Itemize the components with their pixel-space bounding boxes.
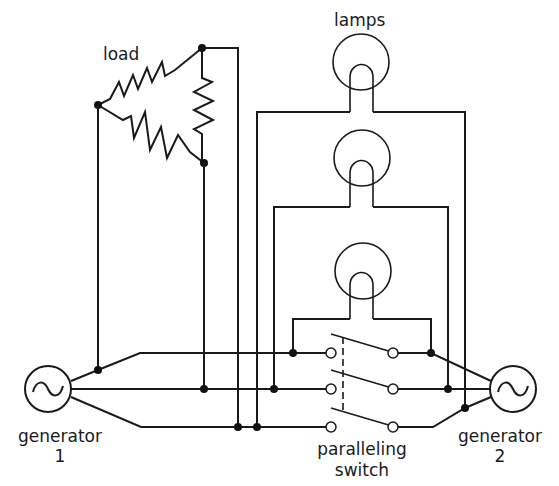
circuit-diagram: load lamps generator 1 paralleling switc… — [0, 0, 559, 486]
bus-phase-a-gen1 — [71, 353, 331, 381]
wire-lamp2-left — [274, 207, 350, 389]
generator-1-icon — [25, 366, 71, 412]
switch-terminal-b-right — [388, 384, 398, 394]
load-resistor-bottom — [98, 105, 204, 163]
bus-phase-a-gen2 — [398, 353, 491, 381]
wire-lamp3-right — [373, 319, 431, 353]
switch-terminal-b-left — [326, 384, 336, 394]
load-resistor-right — [194, 48, 213, 163]
switch-terminal-c-left — [326, 422, 336, 432]
switch-blade-a — [331, 334, 392, 352]
label-lamps: lamps — [334, 10, 385, 30]
switch-blade-c — [331, 408, 392, 426]
label-generator-2: generator — [458, 426, 542, 446]
switch-terminal-a-right — [388, 348, 398, 358]
lamp-1-icon — [333, 34, 389, 112]
wire-lamp3-left — [293, 319, 350, 353]
label-generator-2-number: 2 — [495, 446, 506, 466]
label-generator-1-number: 1 — [55, 446, 66, 466]
paralleling-switch[interactable] — [326, 334, 398, 432]
wire-lamp1-right — [373, 112, 465, 408]
generator-2-icon — [490, 366, 536, 412]
lamp-3-icon — [335, 243, 391, 319]
switch-terminal-a-left — [326, 348, 336, 358]
bus-phase-c-gen1 — [71, 397, 331, 427]
label-load: load — [103, 44, 139, 64]
lamp-2-icon — [334, 130, 390, 207]
wire-lamp1-left — [257, 112, 350, 427]
label-switch-line2: switch — [335, 460, 389, 480]
label-switch-line1: paralleling — [317, 439, 407, 459]
switch-blade-b — [331, 370, 392, 388]
bus-phase-c-gen2 — [398, 397, 491, 427]
wire-lamp2-right — [373, 207, 448, 389]
wire-load-top-to-bus — [202, 48, 238, 427]
label-generator-1: generator — [18, 426, 102, 446]
switch-terminal-c-right — [388, 422, 398, 432]
